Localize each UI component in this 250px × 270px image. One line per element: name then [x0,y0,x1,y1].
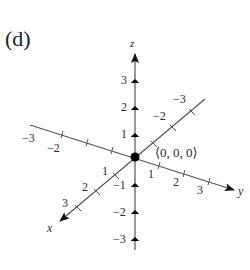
x-tick-3: 3 [62,196,68,210]
x-axis-label: x [46,221,53,235]
z-tick-1: 1 [121,127,127,141]
y-tick-3: 3 [197,183,203,197]
z-tick-3: 3 [121,73,127,87]
y-axis-label: y [237,184,244,198]
y-tick-1: 1 [148,167,154,181]
x-tick-2: 2 [82,180,88,194]
y-tick-neg3: −3 [22,131,35,145]
z-tick-neg2: −2 [113,205,126,219]
z-axis-label: z [129,37,135,49]
y-tick-2: 2 [173,175,179,189]
coordinate-axes-diagram: z 3 2 1 −1 −2 −3 y −3 −2 1 2 3 x −3 −2 1 [0,0,250,270]
z-tick-neg3: −3 [113,232,126,246]
z-tick-2: 2 [121,100,127,114]
x-tick-neg2: −2 [153,109,166,123]
y-tick-neg2: −2 [47,141,60,155]
z-axis: z 3 2 1 −1 −2 −3 [113,37,139,250]
z-tick-neg1: −1 [113,178,126,192]
x-tick-neg3: −3 [173,92,186,106]
origin-label: ⟨0, 0, 0⟩ [155,145,198,160]
origin-point [131,153,140,162]
x-tick-1: 1 [102,164,108,178]
